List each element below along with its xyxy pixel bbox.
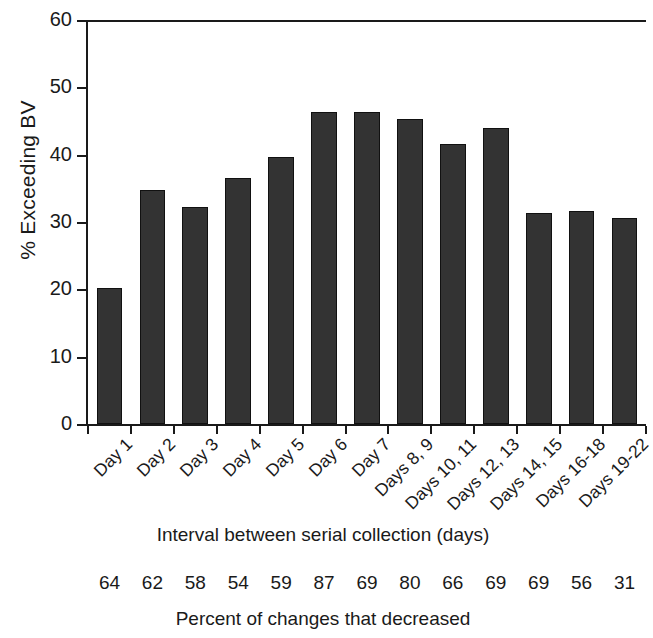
x-axis-tick	[260, 426, 303, 434]
x-axis-tick	[560, 426, 603, 434]
y-axis-tick: 40	[77, 155, 86, 157]
y-axis-tick-label: 10	[50, 345, 72, 368]
x-axis-ticks	[88, 426, 646, 434]
x-axis-category-labels: Day 1Day 2Day 3Day 4Day 5Day 6Day 7Days …	[88, 434, 646, 518]
x-axis-tick	[388, 426, 431, 434]
secondary-values-caption: Percent of changes that decreased	[0, 608, 646, 630]
bar	[268, 157, 294, 424]
y-axis-tick: 60	[77, 20, 86, 22]
x-axis-category-label: Day 2	[132, 434, 179, 481]
secondary-value: 31	[603, 572, 646, 598]
x-axis-category-label: Day 6	[305, 434, 352, 481]
secondary-value: 62	[131, 572, 174, 598]
secondary-value: 87	[303, 572, 346, 598]
bar	[569, 211, 595, 424]
x-axis-tick	[346, 426, 389, 434]
secondary-value: 80	[388, 572, 431, 598]
x-axis-tick	[474, 426, 517, 434]
bar	[612, 218, 638, 424]
bar-slot	[603, 20, 646, 424]
secondary-value: 66	[431, 572, 474, 598]
y-axis-tick-label: 60	[50, 8, 72, 31]
bar	[354, 112, 380, 424]
secondary-value: 64	[88, 572, 131, 598]
secondary-value: 59	[260, 572, 303, 598]
bar-series	[88, 20, 646, 424]
y-axis-tick-label: 50	[50, 75, 72, 98]
y-axis-tick-label: 0	[61, 412, 72, 435]
secondary-values-row: 64625854598769806669695631	[88, 572, 646, 598]
secondary-value: 69	[346, 572, 389, 598]
bar-slot	[174, 20, 217, 424]
bar	[483, 128, 509, 424]
y-axis-title: % Exceeding BV	[16, 80, 40, 280]
bar-slot	[260, 20, 303, 424]
bar	[397, 119, 423, 424]
bar-slot	[560, 20, 603, 424]
bar-slot	[346, 20, 389, 424]
bar-slot	[217, 20, 260, 424]
bar-slot	[303, 20, 346, 424]
plot-area: 0102030405060	[86, 20, 646, 426]
secondary-value: 69	[517, 572, 560, 598]
bar-slot	[431, 20, 474, 424]
y-axis-tick: 20	[77, 289, 86, 291]
bar-slot	[474, 20, 517, 424]
y-axis-tick-label: 30	[50, 210, 72, 233]
x-axis-tick	[217, 426, 260, 434]
y-axis-tick-label: 40	[50, 143, 72, 166]
x-axis-category-label: Day 1	[89, 434, 136, 481]
x-axis-category-label: Day 3	[175, 434, 222, 481]
x-axis-category-label: Day 5	[262, 434, 309, 481]
bar-slot	[88, 20, 131, 424]
bar	[440, 144, 466, 424]
secondary-value: 58	[174, 572, 217, 598]
x-axis-tick	[131, 426, 174, 434]
bar	[140, 190, 166, 424]
x-axis-tick	[517, 426, 560, 434]
bar-slot	[388, 20, 431, 424]
y-axis-tick: 10	[77, 357, 86, 359]
y-axis-tick: 30	[77, 222, 86, 224]
x-axis-tick	[303, 426, 346, 434]
x-axis-tick	[431, 426, 474, 434]
bar	[182, 207, 208, 424]
bar-slot	[131, 20, 174, 424]
y-axis-tick-label: 20	[50, 277, 72, 300]
x-axis-tick	[174, 426, 217, 434]
x-axis-title: Interval between serial collection (days…	[0, 524, 646, 546]
bar-slot	[517, 20, 560, 424]
y-axis-tick: 0	[77, 424, 86, 426]
bar	[97, 288, 123, 424]
x-axis-category-label: Day 4	[218, 434, 265, 481]
x-axis-tick	[603, 426, 646, 434]
secondary-value: 54	[217, 572, 260, 598]
y-axis-tick: 50	[77, 87, 86, 89]
bar	[311, 112, 337, 424]
secondary-value: 69	[474, 572, 517, 598]
secondary-value: 56	[560, 572, 603, 598]
bar	[526, 213, 552, 424]
x-axis-tick	[88, 426, 131, 434]
bar	[225, 178, 251, 424]
